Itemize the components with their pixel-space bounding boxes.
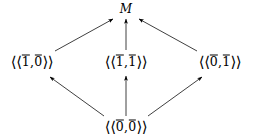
node-middle-close-bracket: ⟩⟩ xyxy=(136,53,147,71)
node-right-close-bracket: ⟩⟩ xyxy=(230,53,241,71)
node-left-first-digit: 1 xyxy=(22,56,30,69)
node-left-open-bracket: ⟨⟨ xyxy=(11,53,22,71)
node-right-second-digit: 1 xyxy=(222,56,230,69)
node-bottom-pair: ⟨⟨0,0⟩⟩ xyxy=(105,120,147,135)
node-bottom-first-digit: 0 xyxy=(116,121,124,134)
commutative-diagram: M ⟨⟨1,0⟩⟩ ⟨⟨1,1⟩⟩ ⟨⟨0,1⟩⟩ ⟨⟨0,0⟩⟩ xyxy=(0,0,253,139)
node-right-first-digit: 0 xyxy=(210,56,218,69)
node-left-second-digit: 0 xyxy=(34,56,42,69)
node-bottom-second-digit: 0 xyxy=(128,121,136,134)
node-left-pair: ⟨⟨1,0⟩⟩ xyxy=(11,55,53,70)
node-middle-first-digit: 1 xyxy=(116,56,124,69)
node-right-pair: ⟨⟨0,1⟩⟩ xyxy=(199,55,241,70)
edge-bottom-to-left xyxy=(50,77,104,116)
edge-right-to-top xyxy=(139,19,197,51)
node-right-open-bracket: ⟨⟨ xyxy=(199,53,210,71)
edge-bottom-to-right xyxy=(148,77,202,116)
node-left-close-bracket: ⟩⟩ xyxy=(42,53,53,71)
node-bottom-open-bracket: ⟨⟨ xyxy=(105,118,116,136)
node-middle-open-bracket: ⟨⟨ xyxy=(105,53,116,71)
edge-left-to-top xyxy=(55,19,113,51)
node-middle-second-digit: 1 xyxy=(128,56,136,69)
node-top-object: M xyxy=(120,3,132,15)
node-middle-pair: ⟨⟨1,1⟩⟩ xyxy=(105,55,147,70)
node-bottom-close-bracket: ⟩⟩ xyxy=(136,118,147,136)
